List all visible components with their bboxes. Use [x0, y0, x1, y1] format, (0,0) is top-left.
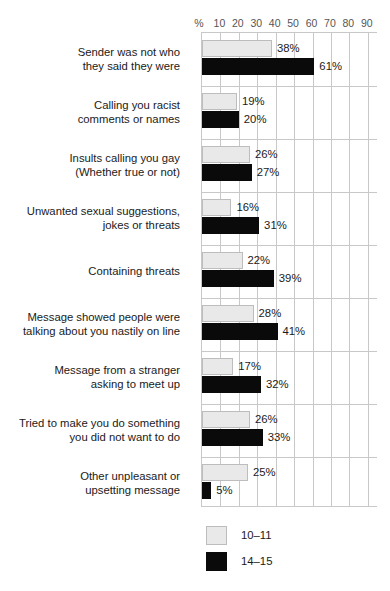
bar-value-label: 26%	[250, 412, 278, 427]
chart-category-row: Message showed people weretalking about …	[0, 297, 390, 350]
bar-series-14-15	[202, 111, 239, 128]
bar-slot: 22%	[202, 252, 390, 269]
bar-slot: 20%	[202, 111, 390, 128]
bar-series-10-11	[202, 411, 250, 428]
bar-group: 22%39%	[202, 244, 390, 297]
chart-category-row: Unwanted sexual suggestions,jokes or thr…	[0, 191, 390, 244]
legend-swatch	[206, 526, 227, 545]
bar-value-label: 41%	[278, 324, 306, 339]
bar-slot: 16%	[202, 199, 390, 216]
bar-value-label: 16%	[231, 200, 259, 215]
category-label-line: jokes or threats	[0, 218, 180, 233]
bar-group: 17%32%	[202, 350, 390, 403]
category-label: Sender was not whothey said they were	[0, 44, 189, 73]
chart-category-row: Containing threats22%39%	[0, 244, 390, 297]
bar-slot: 39%	[202, 270, 390, 287]
bar-value-label: 39%	[274, 271, 302, 286]
bar-slot: 27%	[202, 164, 390, 181]
bar-value-label: 27%	[252, 165, 280, 180]
bar-series-14-15	[202, 323, 278, 340]
x-axis-tick-labels: %102030405060708090	[0, 17, 390, 31]
bar-value-label: 38%	[272, 41, 300, 56]
category-label: Message from a strangerasking to meet up	[0, 362, 189, 391]
category-label-line: they said they were	[0, 59, 180, 74]
chart-category-row: Other unpleasant orupsetting message25%5…	[0, 456, 390, 509]
chart-category-row: Insults calling you gay(Whether true or …	[0, 138, 390, 191]
bar-slot: 38%	[202, 40, 390, 57]
chart-category-row: Calling you racistcomments or names19%20…	[0, 85, 390, 138]
category-label: Calling you racistcomments or names	[0, 97, 189, 126]
category-label: Tried to make you do somethingyou did no…	[0, 415, 189, 444]
bar-slot: 31%	[202, 217, 390, 234]
bar-slot: 33%	[202, 429, 390, 446]
bar-group: 25%5%	[202, 456, 390, 509]
bar-slot: 5%	[202, 482, 390, 499]
axis-unit-label: %	[188, 17, 210, 30]
category-label-line: upsetting message	[0, 483, 180, 498]
bar-group: 16%31%	[202, 191, 390, 244]
bar-series-10-11	[202, 305, 254, 322]
bar-series-10-11	[202, 252, 243, 269]
chart-category-row: Message from a strangerasking to meet up…	[0, 350, 390, 403]
bar-value-label: 28%	[254, 306, 282, 321]
category-label: Other unpleasant orupsetting message	[0, 468, 189, 497]
bar-series-10-11	[202, 358, 233, 375]
category-label-line: Insults calling you gay	[0, 150, 180, 165]
bar-value-label: 20%	[239, 112, 267, 127]
bar-series-10-11	[202, 146, 250, 163]
category-label: Unwanted sexual suggestions,jokes or thr…	[0, 203, 189, 232]
category-label-line: Containing threats	[0, 263, 180, 278]
bar-chart: %102030405060708090 Sender was not whoth…	[0, 0, 390, 591]
category-label-line: Sender was not who	[0, 44, 180, 59]
category-label-line: talking about you nastily on line	[0, 324, 180, 339]
bar-value-label: 61%	[314, 59, 342, 74]
bar-series-10-11	[202, 93, 237, 110]
bar-group: 28%41%	[202, 297, 390, 350]
bar-series-14-15	[202, 482, 211, 499]
bar-series-14-15	[202, 217, 259, 234]
bar-slot: 41%	[202, 323, 390, 340]
bar-value-label: 32%	[261, 377, 289, 392]
category-label-line: Message showed people were	[0, 309, 180, 324]
chart-legend: 10–1114–15	[201, 524, 381, 576]
bar-slot: 28%	[202, 305, 390, 322]
bar-value-label: 19%	[237, 94, 265, 109]
legend-item[interactable]: 10–11	[201, 524, 381, 550]
bar-group: 26%27%	[202, 138, 390, 191]
bar-value-label: 5%	[211, 483, 232, 498]
category-label-line: Message from a stranger	[0, 362, 180, 377]
legend-item[interactable]: 14–15	[201, 550, 381, 576]
bar-series-10-11	[202, 464, 248, 481]
category-label: Insults calling you gay(Whether true or …	[0, 150, 189, 179]
bar-slot: 61%	[202, 58, 390, 75]
bar-series-10-11	[202, 40, 272, 57]
chart-category-row: Sender was not whothey said they were38%…	[0, 32, 390, 85]
bar-slot: 26%	[202, 411, 390, 428]
bar-series-14-15	[202, 429, 263, 446]
legend-label: 14–15	[241, 552, 272, 570]
bar-value-label: 17%	[233, 359, 261, 374]
category-label: Message showed people weretalking about …	[0, 309, 189, 338]
bar-series-14-15	[202, 164, 252, 181]
category-label: Containing threats	[0, 263, 189, 278]
category-label-line: comments or names	[0, 112, 180, 127]
category-label-line: Other unpleasant or	[0, 468, 180, 483]
chart-category-row: Tried to make you do somethingyou did no…	[0, 403, 390, 456]
bar-series-14-15	[202, 376, 261, 393]
bar-group: 19%20%	[202, 85, 390, 138]
x-tick-label: 90	[356, 17, 378, 30]
category-label-line: asking to meet up	[0, 377, 180, 392]
bar-slot: 25%	[202, 464, 390, 481]
bar-group: 38%61%	[202, 32, 390, 85]
bar-series-10-11	[202, 199, 231, 216]
bar-series-14-15	[202, 270, 274, 287]
legend-label: 10–11	[241, 526, 272, 544]
bar-slot: 17%	[202, 358, 390, 375]
bar-value-label: 33%	[263, 430, 291, 445]
bar-slot: 32%	[202, 376, 390, 393]
bar-value-label: 25%	[248, 465, 276, 480]
bar-series-14-15	[202, 58, 314, 75]
bar-value-label: 22%	[243, 253, 271, 268]
category-label-line: Tried to make you do something	[0, 415, 180, 430]
category-label-line: Unwanted sexual suggestions,	[0, 203, 180, 218]
